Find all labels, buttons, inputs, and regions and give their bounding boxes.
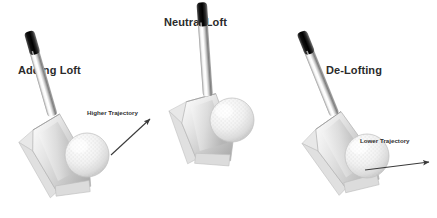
- trajectory-label-lower: Lower Trajectory: [360, 137, 410, 145]
- club-shaft-adding: [24, 30, 58, 117]
- golf-ball-neutral: [210, 98, 254, 142]
- panel-neutral-loft: Neutral Loft: [152, 0, 282, 218]
- panel-adding-loft: Adding Loft: [0, 0, 165, 218]
- club-illustration-de-lofting: [292, 0, 437, 218]
- golf-ball-adding: [65, 133, 109, 177]
- trajectory-arrow-higher: [111, 119, 150, 155]
- panel-de-lofting: De-Lofting: [292, 0, 437, 218]
- club-shaft-delofting: [296, 30, 339, 117]
- trajectory-label-higher: Higher Trajectory: [87, 109, 138, 117]
- club-shaft-neutral: [196, 2, 213, 97]
- club-illustration-adding-loft: [0, 0, 165, 218]
- golf-loft-diagram: Adding Loft: [0, 0, 437, 218]
- club-illustration-neutral-loft: [152, 0, 282, 218]
